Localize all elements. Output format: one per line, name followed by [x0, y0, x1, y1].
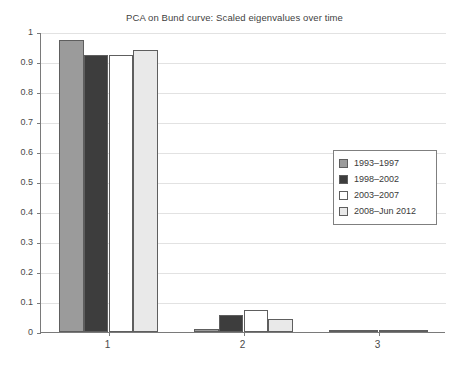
legend-item-label: 1998–2002 — [354, 174, 399, 184]
y-axis-tick-label: 0 — [0, 328, 33, 337]
y-axis-tick — [37, 183, 41, 184]
x-axis-tick — [244, 332, 245, 336]
bar — [84, 55, 109, 333]
y-axis-tick-label: 0.4 — [0, 208, 33, 217]
bar — [133, 50, 158, 332]
legend-item[interactable]: 2003–2007 — [339, 187, 431, 203]
legend-swatch-icon — [339, 175, 348, 184]
y-axis-tick — [37, 273, 41, 274]
bar — [379, 330, 404, 332]
bar — [403, 330, 428, 332]
gridline — [41, 33, 446, 34]
y-axis-tick-label: 0.1 — [0, 298, 33, 307]
bar — [268, 319, 293, 332]
y-axis-tick-label: 0.2 — [0, 268, 33, 277]
y-axis-tick-label: 0.7 — [0, 118, 33, 127]
bar-chart: PCA on Bund curve: Scaled eigenvalues ov… — [0, 0, 469, 372]
legend-item-label: 1993–1997 — [354, 158, 399, 168]
y-axis-tick-label: 0.6 — [0, 148, 33, 157]
y-axis-tick-label: 0.3 — [0, 238, 33, 247]
x-axis-tick — [379, 332, 380, 336]
y-axis-tick — [37, 303, 41, 304]
legend-item[interactable]: 1998–2002 — [339, 171, 431, 187]
legend-item[interactable]: 2008–Jun 2012 — [339, 203, 431, 219]
y-axis-tick — [37, 333, 41, 334]
x-axis-tick — [109, 332, 110, 336]
x-axis-tick-label: 3 — [358, 340, 398, 350]
bar — [194, 329, 219, 332]
legend-item[interactable]: 1993–1997 — [339, 155, 431, 171]
legend-swatch-icon — [339, 159, 348, 168]
y-axis-tick-label: 0.9 — [0, 58, 33, 67]
y-axis-tick-label: 0.8 — [0, 88, 33, 97]
x-axis-tick-label: 1 — [88, 340, 128, 350]
y-axis-tick — [37, 123, 41, 124]
y-axis-tick — [37, 93, 41, 94]
legend-item-label: 2003–2007 — [354, 190, 399, 200]
y-axis-tick — [37, 243, 41, 244]
bar — [354, 330, 379, 332]
x-axis-tick-label: 2 — [223, 340, 263, 350]
y-axis-tick — [37, 153, 41, 154]
bar — [109, 55, 134, 333]
y-axis-tick-label: 1 — [0, 28, 33, 37]
bar — [59, 40, 84, 333]
legend-item-label: 2008–Jun 2012 — [354, 206, 416, 216]
y-axis-tick — [37, 213, 41, 214]
chart-title: PCA on Bund curve: Scaled eigenvalues ov… — [0, 12, 469, 23]
chart-legend: 1993–19971998–20022003–20072008–Jun 2012 — [333, 150, 437, 225]
legend-swatch-icon — [339, 207, 348, 216]
bar — [219, 315, 244, 332]
bar — [244, 310, 269, 333]
bar — [329, 330, 354, 332]
y-axis-tick — [37, 33, 41, 34]
legend-swatch-icon — [339, 191, 348, 200]
y-axis-tick-label: 0.5 — [0, 178, 33, 187]
y-axis-tick — [37, 63, 41, 64]
